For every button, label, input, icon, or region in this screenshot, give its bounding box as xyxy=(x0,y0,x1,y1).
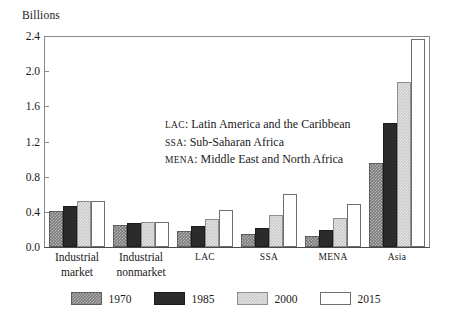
bar xyxy=(77,201,91,247)
bar xyxy=(241,234,255,247)
legend-swatch xyxy=(71,292,102,305)
bar xyxy=(411,39,425,247)
abbreviation-definition: : Latin America and the Caribbean xyxy=(185,117,351,131)
abbreviation-term: LAC xyxy=(165,120,185,130)
x-axis-label: LAC xyxy=(173,250,237,265)
abbreviation-note: SSA: Sub-Saharan Africa xyxy=(165,134,351,152)
x-axis-label: Asia xyxy=(365,250,429,265)
x-axis-label: Industrialmarket xyxy=(45,250,109,280)
abbreviation-note: MENA: Middle East and North Africa xyxy=(165,151,351,169)
bar xyxy=(369,163,383,247)
y-axis-tick-mark xyxy=(44,177,49,178)
bar xyxy=(269,215,283,247)
legend-item: 1970 xyxy=(71,292,132,305)
legend-swatch xyxy=(237,292,268,305)
y-axis-tick-label: 0.4 xyxy=(14,206,40,218)
bar xyxy=(177,231,191,247)
x-axis-label: Industrialnonmarket xyxy=(109,250,173,280)
y-axis-tick-mark xyxy=(44,71,49,72)
y-axis-tick-label: 1.6 xyxy=(14,100,40,112)
y-axis-tick-label: 1.2 xyxy=(14,136,40,148)
bar xyxy=(397,82,411,247)
abbreviation-notes: LAC: Latin America and the CaribbeanSSA:… xyxy=(165,116,351,169)
y-axis-tick-label: 0.0 xyxy=(14,241,40,253)
legend-label: 2000 xyxy=(275,293,298,305)
y-axis-tick-mark xyxy=(44,212,49,213)
x-axis-label: SSA xyxy=(237,250,301,265)
chart-legend: 1970198520002015 xyxy=(0,292,451,305)
abbreviation-note: LAC: Latin America and the Caribbean xyxy=(165,116,351,134)
y-axis-tick-label: 2.4 xyxy=(14,30,40,42)
legend-label: 2015 xyxy=(358,293,381,305)
bar xyxy=(347,204,361,247)
bar xyxy=(333,218,347,247)
bar-group xyxy=(109,36,173,247)
abbreviation-term: SSA xyxy=(165,138,183,148)
bar xyxy=(319,230,333,247)
y-axis-tick-label: 2.0 xyxy=(14,65,40,77)
chart-figure: Billions 0.00.40.81.21.62.02.4 Industria… xyxy=(0,0,451,331)
bar xyxy=(283,194,297,247)
x-axis-label: MENA xyxy=(301,250,365,265)
y-axis-tick-label: 0.8 xyxy=(14,171,40,183)
bar xyxy=(127,223,141,247)
legend-label: 1985 xyxy=(192,293,215,305)
bar xyxy=(383,123,397,247)
abbreviation-definition: : Sub-Saharan Africa xyxy=(183,135,284,149)
bar-group xyxy=(45,36,109,247)
y-axis: 0.00.40.81.21.62.02.4 xyxy=(0,0,40,331)
bar xyxy=(49,211,63,247)
bar xyxy=(255,228,269,247)
legend-label: 1970 xyxy=(109,293,132,305)
legend-swatch xyxy=(154,292,185,305)
bar xyxy=(155,222,169,247)
bar xyxy=(305,236,319,247)
bar xyxy=(141,222,155,247)
abbreviation-term: MENA xyxy=(165,155,194,165)
bar xyxy=(63,206,77,247)
bar xyxy=(91,201,105,247)
bar xyxy=(113,225,127,247)
y-axis-tick-mark xyxy=(44,106,49,107)
bar xyxy=(191,226,205,247)
x-axis-labels: IndustrialmarketIndustrialnonmarketLACSS… xyxy=(45,250,429,294)
legend-swatch xyxy=(320,292,351,305)
legend-item: 2000 xyxy=(237,292,298,305)
bar xyxy=(219,210,233,247)
y-axis-tick-mark xyxy=(44,142,49,143)
bar-group xyxy=(365,36,429,247)
legend-item: 1985 xyxy=(154,292,215,305)
bar xyxy=(205,219,219,247)
abbreviation-definition: : Middle East and North Africa xyxy=(194,152,343,166)
legend-item: 2015 xyxy=(320,292,381,305)
